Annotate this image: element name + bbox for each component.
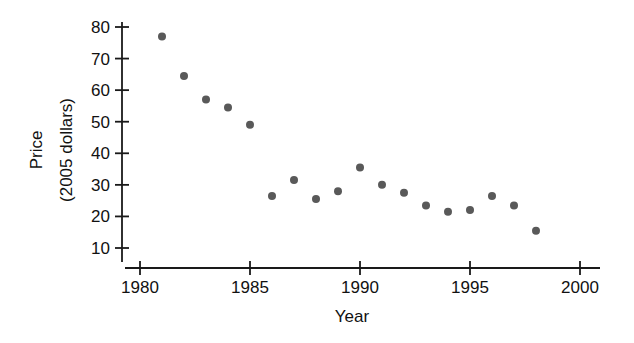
y-axis-title-line2: (2005 dollars) [57,98,76,202]
data-point [290,176,298,184]
x-axis-tick-label: 1985 [231,278,269,297]
chart-figure: 1020304050607080 19801985199019952000 Pr… [0,0,634,343]
data-point [268,192,276,200]
data-point [224,104,232,112]
data-point [202,96,210,104]
y-axis-tick-label: 40 [91,144,110,163]
axes [122,22,600,268]
y-axis-tick-label: 50 [91,113,110,132]
data-point [180,72,188,80]
data-point [158,32,166,40]
x-axis-tick-labels: 19801985199019952000 [121,278,599,297]
data-point [466,206,474,214]
x-axis-tick-label: 1995 [451,278,489,297]
x-axis-tick-label: 2000 [561,278,599,297]
data-point [312,195,320,203]
data-point [444,208,452,216]
data-points [158,32,540,234]
scatter-plot: 1020304050607080 19801985199019952000 Pr… [0,0,634,343]
y-axis-tick-label: 10 [91,239,110,258]
y-axis-title-line1: Price [27,131,46,170]
x-axis-title: Year [335,307,370,326]
data-point [510,201,518,209]
data-point [488,192,496,200]
y-axis-tick-labels: 1020304050607080 [91,18,110,258]
data-point [334,187,342,195]
data-point [400,189,408,197]
y-axis-tick-label: 30 [91,176,110,195]
y-axis-title: Price (2005 dollars) [27,98,76,202]
data-point [532,227,540,235]
y-axis-tick-label: 80 [91,18,110,37]
x-axis-tick-label: 1980 [121,278,159,297]
x-axis-tick-label: 1990 [341,278,379,297]
y-axis-tick-label: 60 [91,81,110,100]
axis-ticks [115,27,580,275]
y-axis-tick-label: 70 [91,50,110,69]
data-point [356,163,364,171]
data-point [378,181,386,189]
data-point [422,201,430,209]
y-axis-tick-label: 20 [91,207,110,226]
data-point [246,121,254,129]
